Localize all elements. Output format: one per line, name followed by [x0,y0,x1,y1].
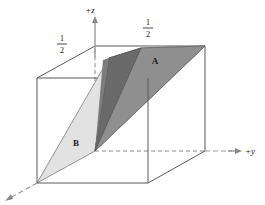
region-label-a: A [152,56,159,66]
left-half-numerator: 1 [60,34,64,43]
axis-y-label: +y [245,146,255,156]
axis-z-label: +z [85,5,95,15]
left-half-denominator: 2 [60,46,64,55]
geometry-figure: +z +y 1 2 1 2 A B [0,0,265,205]
cube-diagram-svg: +z +y 1 2 1 2 A B [0,0,265,205]
right-half-denominator: 2 [146,30,150,39]
region-label-b: B [73,138,79,148]
right-half-numerator: 1 [146,18,150,27]
